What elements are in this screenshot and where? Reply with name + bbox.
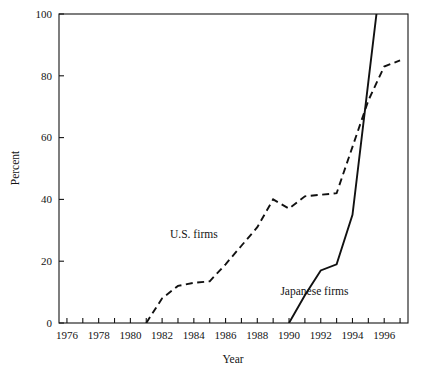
- y-axis-title: Percent: [9, 150, 21, 185]
- x-tick-label: 1976: [56, 329, 79, 341]
- y-tick-label: 100: [36, 8, 53, 20]
- y-tick-label: 20: [41, 255, 53, 267]
- x-tick-label: 1994: [341, 329, 364, 341]
- x-tick-label: 1992: [310, 329, 332, 341]
- y-tick-label: 80: [41, 70, 53, 82]
- series-group: [146, 0, 400, 323]
- series-label-us-firms: U.S. firms: [170, 228, 218, 240]
- x-axis-tick-labels: 1976197819801982198419861988199019921994…: [56, 329, 396, 341]
- x-tick-label: 1990: [278, 329, 301, 341]
- y-tick-label: 60: [41, 131, 53, 143]
- series-line-us-firms: [146, 60, 400, 323]
- series-label-japanese-firms: Japanese firms: [280, 285, 349, 298]
- x-tick-label: 1982: [151, 329, 173, 341]
- x-tick-label: 1980: [119, 329, 142, 341]
- x-tick-label: 1986: [215, 329, 238, 341]
- x-tick-label: 1996: [373, 329, 396, 341]
- x-axis-title: Year: [222, 353, 243, 365]
- chart-figure: 020406080100 197619781980198219841986198…: [0, 0, 427, 380]
- series-line-japanese-firms: [289, 0, 384, 323]
- line-chart: 020406080100 197619781980198219841986198…: [0, 0, 427, 380]
- x-tick-label: 1988: [246, 329, 269, 341]
- y-tick-label: 40: [41, 193, 53, 205]
- y-axis-ticks: [59, 14, 64, 323]
- plot-frame: [59, 14, 408, 323]
- x-tick-label: 1978: [88, 329, 111, 341]
- y-axis-tick-labels: 020406080100: [36, 8, 53, 329]
- y-tick-label: 0: [47, 317, 53, 329]
- x-tick-label: 1984: [183, 329, 206, 341]
- x-axis-ticks: [67, 318, 400, 323]
